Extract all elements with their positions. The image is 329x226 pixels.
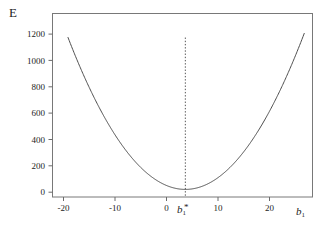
y-tick-label: 1000 <box>27 56 46 66</box>
x-axis-ticks <box>64 197 270 201</box>
optimum-point-label: b1* <box>177 203 189 217</box>
x-tick-label: -10 <box>109 203 121 213</box>
y-tick-label: 800 <box>32 82 46 92</box>
x-axis-tick-labels: -20 -10 0 10 20 <box>58 203 275 213</box>
x-axis-label-subscript: 1 <box>302 211 306 219</box>
chart-figure: 0 200 400 600 800 1000 1200 -20 -10 0 10… <box>0 0 329 226</box>
y-axis-ticks <box>49 34 53 192</box>
y-axis-label: E <box>9 6 17 19</box>
y-tick-label: 400 <box>32 135 46 145</box>
plot-frame <box>53 14 313 198</box>
y-axis-tick-labels: 0 200 400 600 800 1000 1200 <box>27 29 46 197</box>
y-tick-label: 0 <box>41 187 46 197</box>
x-tick-label: 0 <box>164 203 169 213</box>
error-curve <box>68 33 304 189</box>
y-tick-label: 1200 <box>27 29 46 39</box>
plot-canvas: 0 200 400 600 800 1000 1200 -20 -10 0 10… <box>0 0 329 226</box>
x-tick-label: 20 <box>265 203 275 213</box>
x-axis-label: b1 <box>296 206 305 219</box>
x-tick-label: -20 <box>58 203 70 213</box>
optimum-label-star: * <box>184 202 189 212</box>
y-tick-label: 200 <box>32 161 46 171</box>
y-tick-label: 600 <box>32 108 46 118</box>
x-tick-label: 10 <box>214 203 224 213</box>
